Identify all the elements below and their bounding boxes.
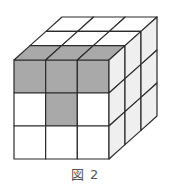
front-face-cell	[14, 60, 46, 93]
figure-caption: 図 2	[0, 164, 170, 183]
front-face-cell	[77, 60, 109, 93]
front-face-cell	[77, 93, 109, 126]
front-face-cell	[14, 126, 46, 159]
front-face-cell	[77, 126, 109, 159]
front-face-cell	[14, 93, 46, 126]
cube-diagram	[0, 0, 170, 188]
front-face-cell	[46, 93, 78, 126]
front-face-cell	[46, 126, 78, 159]
front-face-cell	[46, 60, 78, 93]
